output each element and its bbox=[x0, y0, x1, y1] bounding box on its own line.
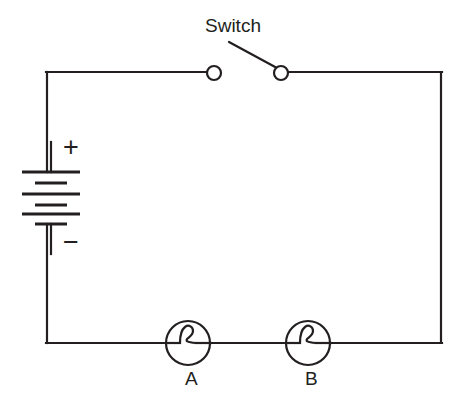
lamp-b-symbol bbox=[286, 321, 331, 365]
lamp-a-symbol bbox=[166, 321, 211, 365]
battery-positive-label: + bbox=[63, 134, 79, 161]
circuit-wiring bbox=[46, 72, 442, 343]
circuit-schematic-canvas bbox=[0, 0, 466, 405]
switch-label: Switch bbox=[205, 16, 261, 35]
lamp-b-label: B bbox=[305, 369, 318, 388]
battery-symbol bbox=[22, 172, 80, 224]
lamp-a-label: A bbox=[185, 369, 198, 388]
switch-symbol[interactable] bbox=[207, 42, 288, 80]
switch-lever[interactable] bbox=[229, 42, 277, 68]
battery-negative-label: − bbox=[63, 229, 79, 256]
switch-contact-right[interactable] bbox=[274, 66, 288, 80]
circuit-diagram-page: Switch + − A B bbox=[0, 0, 466, 405]
switch-contact-left[interactable] bbox=[207, 66, 221, 80]
